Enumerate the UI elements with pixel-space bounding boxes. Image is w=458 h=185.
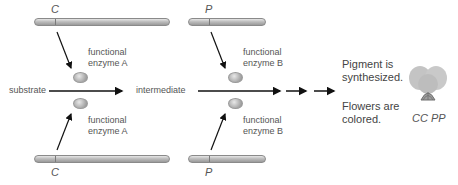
enzyme-b-bottom-label: functional enzyme B — [243, 115, 283, 137]
pigment-line1: Pigment is — [342, 58, 403, 71]
substrate-label: substrate — [9, 85, 46, 96]
colored-flower-icon — [408, 64, 448, 114]
enzyme-b-top-line2: enzyme B — [243, 58, 283, 69]
genotype-label: CC PP — [412, 112, 446, 124]
enzyme-a-top — [73, 72, 88, 83]
enzyme-b-bottom-line1: functional — [243, 115, 283, 126]
arrow-p-bottom-to-enzyme-b — [211, 114, 225, 150]
enzyme-a-top-line2: enzyme A — [88, 58, 128, 69]
arrow-c-bottom-to-enzyme-a — [57, 114, 71, 150]
flowers-line2: colored. — [342, 113, 399, 126]
enzyme-a-bottom-label: functional enzyme A — [88, 115, 128, 137]
flowers-text: Flowers are colored. — [342, 100, 399, 126]
enzyme-a-bottom-line1: functional — [88, 115, 128, 126]
pigment-line2: synthesized. — [342, 71, 403, 84]
enzyme-b-top — [228, 72, 243, 83]
arrows-layer — [0, 0, 458, 185]
enzyme-a-top-line1: functional — [88, 47, 128, 58]
arrow-p-top-to-enzyme-b — [211, 32, 225, 68]
arrow-c-top-to-enzyme-a — [57, 32, 71, 68]
enzyme-b-top-line1: functional — [243, 47, 283, 58]
enzyme-b-bottom — [228, 98, 243, 109]
enzyme-b-bottom-line2: enzyme B — [243, 126, 283, 137]
enzyme-a-bottom — [73, 98, 88, 109]
pigment-text: Pigment is synthesized. — [342, 58, 403, 84]
enzyme-a-bottom-line2: enzyme A — [88, 126, 128, 137]
enzyme-b-top-label: functional enzyme B — [243, 47, 283, 69]
flowers-line1: Flowers are — [342, 100, 399, 113]
intermediate-label: intermediate — [136, 85, 186, 96]
enzyme-a-top-label: functional enzyme A — [88, 47, 128, 69]
